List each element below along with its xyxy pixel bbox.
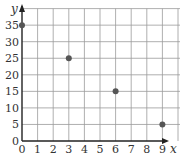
y-tick-label: 30: [5, 36, 19, 49]
x-tick-label: 8: [143, 143, 150, 156]
y-tick-labels: 05101520253035: [5, 19, 19, 148]
y-tick-label: 15: [5, 85, 19, 98]
data-point: [19, 22, 25, 28]
y-tick-label: 20: [5, 69, 19, 82]
grid-lines: [22, 9, 180, 141]
data-point: [66, 55, 72, 61]
x-tick-label: 7: [128, 143, 135, 156]
x-tick-label: 6: [112, 143, 119, 156]
y-tick-label: 10: [5, 102, 19, 115]
y-axis-arrow-icon: [19, 4, 25, 12]
x-tick-label: 0: [19, 143, 26, 156]
scatter-chart: 0123456789 05101520253035 x y: [0, 0, 180, 156]
x-tick-label: 3: [65, 143, 72, 156]
x-tick-labels: 0123456789: [19, 143, 166, 156]
y-tick-label: 0: [12, 135, 19, 148]
x-tick-label: 4: [81, 143, 88, 156]
x-tick-label: 1: [34, 143, 41, 156]
y-tick-label: 35: [5, 19, 19, 32]
y-tick-label: 5: [12, 118, 19, 131]
data-point: [113, 88, 119, 94]
x-tick-label: 2: [50, 143, 57, 156]
x-axis-label: x: [170, 142, 177, 156]
y-axis-label: y: [10, 2, 18, 16]
data-point: [159, 121, 165, 127]
x-tick-label: 9: [159, 143, 166, 156]
x-tick-label: 5: [97, 143, 104, 156]
y-tick-label: 25: [5, 52, 19, 65]
